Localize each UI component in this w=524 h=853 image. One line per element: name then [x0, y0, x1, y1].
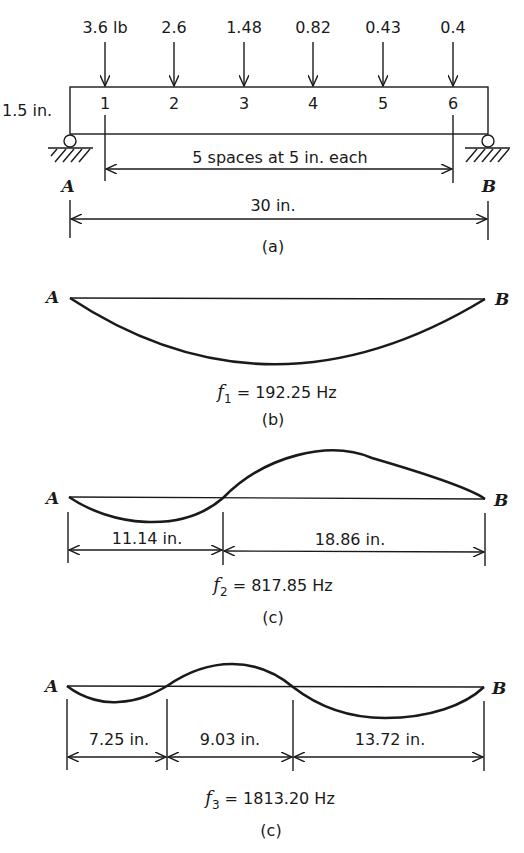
span-label: 30 in.: [250, 196, 295, 215]
segment-label-2: 18.86 in.: [315, 530, 386, 549]
beam-depth-label: 1.5 in.: [2, 101, 52, 120]
part-d-third-mode: A B 7.25 in. 9.03 in. 13.72 in. f3 = 181…: [43, 664, 506, 840]
load-label-5: 0.43: [365, 18, 401, 37]
station-5: 5: [378, 94, 388, 113]
node-b-label: B: [493, 490, 508, 510]
station-6: 6: [448, 94, 458, 113]
station-2: 2: [169, 94, 179, 113]
station-4: 4: [308, 94, 318, 113]
caption-d: (c): [260, 821, 281, 840]
load-label-6: 0.4: [440, 18, 465, 37]
frequency-3: f3 = 1813.20 Hz: [203, 787, 335, 812]
caption-c: (c): [262, 608, 283, 627]
segment-label-2: 9.03 in.: [200, 730, 260, 749]
segment-label-1: 7.25 in.: [89, 730, 149, 749]
frequency-1: f1 = 192.25 Hz: [215, 381, 336, 406]
node-a-label: A: [43, 676, 58, 696]
support-b-label: B: [481, 176, 496, 196]
caption-b: (b): [262, 410, 285, 429]
part-c-second-mode: A B 11.14 in. 18.86 in. f2 = 817.85 Hz (…: [44, 451, 508, 627]
mode-shape-1: [70, 298, 485, 364]
load-label-1: 3.6 lb: [82, 18, 127, 37]
load-label-2: 2.6: [161, 18, 186, 37]
load-label-4: 0.82: [295, 18, 331, 37]
beam-mode-shapes-diagram: 3.6 lb 2.6 1.48 0.82 0.43 0.4 1.5 in. 1 …: [0, 0, 524, 853]
load-label-3: 1.48: [226, 18, 262, 37]
node-b-label: B: [491, 678, 506, 698]
node-a-label: A: [44, 488, 59, 508]
frequency-2: f2 = 817.85 Hz: [211, 574, 332, 599]
support-a-label: A: [59, 176, 74, 196]
part-a-loaded-beam: 3.6 lb 2.6 1.48 0.82 0.43 0.4 1.5 in. 1 …: [2, 18, 510, 256]
load-arrow-icons: [105, 42, 453, 86]
node-a-label: A: [44, 287, 59, 307]
mode-shape-2: [69, 451, 485, 523]
mode-shape-3: [67, 664, 484, 718]
segment-label-1: 11.14 in.: [112, 529, 183, 548]
caption-a: (a): [262, 237, 284, 256]
support-a-icon: [48, 135, 93, 162]
station-1: 1: [100, 94, 110, 113]
segment-label-3: 13.72 in.: [355, 730, 426, 749]
node-b-label: B: [494, 289, 509, 309]
part-b-first-mode: A B f1 = 192.25 Hz (b): [44, 287, 509, 429]
support-b-icon: [465, 135, 510, 162]
beam-body: [70, 87, 488, 134]
spacing-label: 5 spaces at 5 in. each: [192, 148, 367, 167]
segment-dimension-2: [224, 551, 484, 552]
station-3: 3: [239, 94, 249, 113]
